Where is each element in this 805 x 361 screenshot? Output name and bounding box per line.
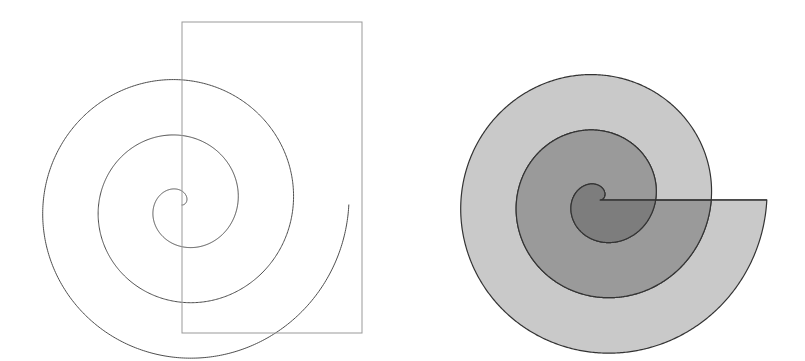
spiral-figures-svg bbox=[0, 0, 805, 361]
figure-board bbox=[0, 0, 805, 361]
